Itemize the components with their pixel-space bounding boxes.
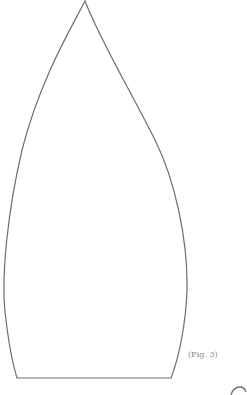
arch-outline — [4, 1, 187, 378]
partial-circle-icon — [231, 387, 246, 395]
pointed-arch-figure — [0, 0, 247, 395]
figure-caption: (Fig. 3) — [188, 350, 218, 359]
